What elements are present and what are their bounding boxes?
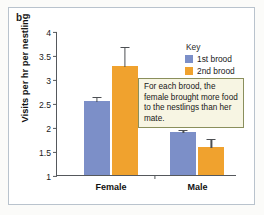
x-axis-tick-label: Female [95, 182, 126, 192]
error-bar-cap [207, 139, 216, 140]
y-axis-tick-mark [53, 151, 57, 152]
bar-female-1st-brood [84, 101, 110, 175]
y-axis-tick-mark [53, 175, 57, 176]
bar-fill [112, 66, 138, 175]
figure-panel: b Visits per hr per nestling 11.522.533.… [0, 0, 264, 215]
error-bar-cap [121, 47, 130, 48]
y-axis-tick-label: 2 [46, 123, 51, 133]
bar-female-2nd-brood [112, 66, 138, 175]
legend-swatch-icon [185, 67, 193, 75]
y-axis-tick-label: 3 [46, 75, 51, 85]
y-axis-tick-label: 2.5 [39, 99, 51, 109]
legend-label: 2nd brood [197, 66, 235, 76]
x-axis-tick-label: Male [187, 182, 207, 192]
chart-legend: Key 1st brood 2nd brood [185, 42, 235, 78]
bar-male-1st-brood [170, 132, 196, 175]
error-bar-cap [93, 97, 102, 98]
y-axis-tick-mark [53, 31, 57, 32]
error-bar-cap [179, 130, 188, 131]
legend-item-1st-brood: 1st brood [185, 54, 235, 64]
y-axis-tick-label: 3.5 [39, 51, 51, 61]
y-axis-tick-mark [53, 55, 57, 56]
bar-fill [170, 132, 196, 175]
error-bar [211, 139, 212, 148]
y-axis-title: Visits per hr per nestling [20, 0, 30, 138]
legend-swatch-icon [185, 55, 193, 63]
error-bar [124, 47, 125, 67]
bar-fill [84, 101, 110, 175]
legend-item-2nd-brood: 2nd brood [185, 66, 235, 76]
bar-fill [198, 147, 224, 175]
bar-male-2nd-brood [198, 147, 224, 175]
legend-title: Key [185, 42, 235, 52]
legend-label: 1st brood [197, 54, 232, 64]
y-axis-tick-label: 1 [46, 171, 51, 181]
y-axis-tick-label: 1.5 [39, 147, 51, 157]
y-axis-tick-label: 4 [46, 27, 51, 37]
y-axis-tick-mark [53, 103, 57, 104]
y-axis-tick-mark [53, 127, 57, 128]
annotation-callout: For each brood, the female brought more … [138, 78, 244, 128]
y-axis-tick-mark [53, 79, 57, 80]
x-axis-tick-mark [155, 175, 156, 179]
